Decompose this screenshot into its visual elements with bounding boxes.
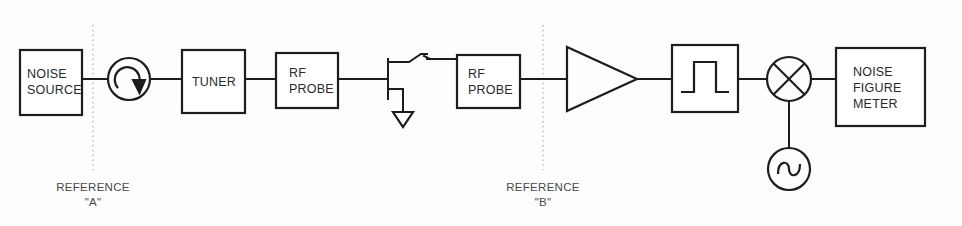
block-amplifier[interactable] xyxy=(567,47,637,111)
rf-probe-1-box xyxy=(276,53,338,108)
transistor-drain-joint xyxy=(424,56,430,59)
reference-b-caption: REFERENCE "B" xyxy=(506,181,580,208)
bandpass-filter-box xyxy=(672,45,738,112)
block-noise-figure-meter[interactable]: NOISE FIGURE METER xyxy=(836,48,925,126)
noise-figure-meter-label-line1: NOISE xyxy=(853,65,893,79)
reference-a-line1: REFERENCE xyxy=(56,181,130,193)
noise-figure-meter-label-line3: METER xyxy=(853,97,898,111)
transistor-source-lead xyxy=(388,89,403,112)
block-local-oscillator[interactable] xyxy=(768,148,810,190)
reference-b-line2: "B" xyxy=(535,196,552,208)
block-rf-probe-2[interactable]: RF PROBE xyxy=(457,55,520,108)
block-mixer[interactable] xyxy=(767,57,811,101)
noise-source-label-line1: NOISE xyxy=(27,67,67,81)
rf-probe-1-label-line2: PROBE xyxy=(289,82,334,96)
block-noise-source[interactable]: NOISE SOURCE xyxy=(20,50,82,115)
transistor-ground-symbol xyxy=(393,112,413,127)
block-isolator[interactable] xyxy=(108,58,150,100)
transistor-drain-lead xyxy=(388,54,427,62)
amplifier-triangle xyxy=(567,47,637,111)
reference-a-line2: "A" xyxy=(85,196,102,208)
block-transistor-dut[interactable] xyxy=(388,54,430,127)
block-bandpass-filter[interactable] xyxy=(672,45,738,112)
rf-probe-1-label-line1: RF xyxy=(289,66,306,80)
noise-figure-meter-label-line2: FIGURE xyxy=(853,81,901,95)
block-rf-probe-1[interactable]: RF PROBE xyxy=(276,53,338,108)
rf-probe-2-box xyxy=(457,55,520,108)
rf-probe-2-label-line1: RF xyxy=(468,67,485,81)
reference-a-caption: REFERENCE "A" xyxy=(56,181,130,208)
diagram-canvas: NOISE SOURCE TUNER RF PROBE xyxy=(0,0,962,226)
local-oscillator-sine-symbol xyxy=(778,163,800,175)
reference-b-line1: REFERENCE xyxy=(506,181,580,193)
rf-probe-2-label-line2: PROBE xyxy=(468,83,513,97)
tuner-label: TUNER xyxy=(192,75,236,89)
block-tuner[interactable]: TUNER xyxy=(182,50,245,113)
isolator-arrowhead xyxy=(133,80,145,93)
noise-source-label-line2: SOURCE xyxy=(27,83,82,97)
block-diagram: NOISE SOURCE TUNER RF PROBE xyxy=(0,0,962,226)
